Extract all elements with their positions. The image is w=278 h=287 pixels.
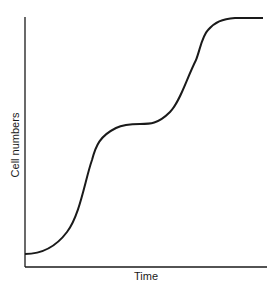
y-axis-label: Cell numbers bbox=[9, 113, 21, 178]
growth-curve bbox=[25, 18, 263, 254]
x-axis-label: Time bbox=[134, 270, 158, 282]
chart-canvas bbox=[0, 0, 278, 287]
